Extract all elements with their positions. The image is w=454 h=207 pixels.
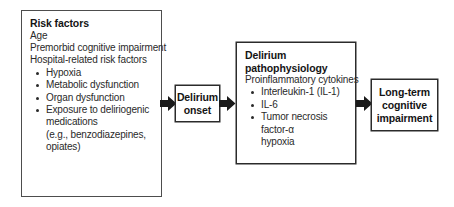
long-term-outcome-box: Long-term cognitive impairment [371, 79, 438, 131]
list-item: Metabolic dysfunction [35, 79, 155, 91]
list-item: IL-6 [250, 99, 350, 111]
delirium-flow-diagram: Risk factors Age Premorbid cognitive imp… [0, 0, 454, 207]
risk-factors-line-hospital: Hospital-related risk factors [30, 54, 155, 66]
risk-factors-box: Risk factors Age Premorbid cognitive imp… [21, 10, 162, 197]
list-item-continuation: medications [35, 116, 155, 128]
list-item: Hypoxia [35, 67, 155, 79]
list-item: Exposure to deliriogenic [35, 104, 155, 116]
list-item: Tumor necrosis factor-α [250, 111, 350, 136]
list-item-continuation: hypoxia [250, 136, 350, 148]
delirium-onset-label: Delirium onset [177, 91, 218, 117]
list-item-continuation: (e.g., benzodiazepines, [35, 129, 155, 141]
list-item: Organ dysfunction [35, 92, 155, 104]
risk-factors-line-premorbid: Premorbid cognitive impairment [30, 42, 155, 54]
list-item-continuation: opiates) [35, 141, 155, 153]
arrow-right-icon [219, 95, 236, 112]
delirium-pathophysiology-box: Delirium pathophysiology Proinflammatory… [236, 42, 356, 164]
list-item: Interleukin-1 (IL-1) [250, 86, 350, 98]
risk-factors-title: Risk factors [30, 17, 155, 30]
delirium-onset-box: Delirium onset [175, 85, 220, 122]
pathophysiology-list: Interleukin-1 (IL-1) IL-6 Tumor necrosis… [245, 86, 350, 148]
long-term-outcome-label: Long-term cognitive impairment [377, 86, 433, 125]
pathophysiology-line-cytokines: Proinflammatory cytokines [245, 74, 350, 86]
pathophysiology-title: Delirium pathophysiology [245, 49, 350, 74]
risk-factors-list: Hypoxia Metabolic dysfunction Organ dysf… [30, 67, 155, 154]
risk-factors-line-age: Age [30, 30, 155, 42]
